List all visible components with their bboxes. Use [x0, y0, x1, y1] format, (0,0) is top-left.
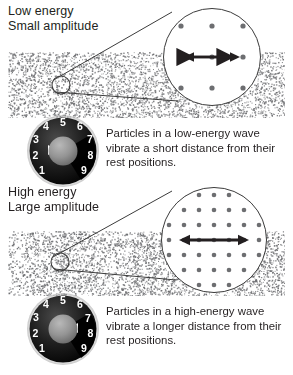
dial-number: 1	[39, 342, 45, 354]
dial-number: 6	[77, 298, 83, 310]
panel-heading-low: Low energy Small amplitude	[8, 4, 98, 34]
dial-number: 7	[87, 133, 93, 145]
dial-number: 5	[60, 294, 66, 306]
vibration-arrow-high	[162, 188, 266, 292]
panel-heading-high: High energy Large amplitude	[8, 185, 99, 215]
magnifier-low	[163, 8, 261, 106]
dial-number: 3	[33, 133, 39, 145]
caption-high: Particles in a high-energy wave vibrate …	[106, 304, 291, 348]
magnifier-high	[161, 187, 267, 293]
dial-number: 8	[88, 149, 94, 161]
dial-number: 4	[43, 120, 49, 132]
vibration-arrow-low	[164, 9, 260, 105]
dial-number: 7	[85, 312, 91, 324]
caption-low: Particles in a low-energy wave vibrate a…	[106, 126, 291, 170]
dial-number: 6	[77, 120, 83, 132]
dial-number: 4	[43, 298, 49, 310]
dial-number: 9	[81, 164, 87, 176]
figure-root: Low energy Small amplitude	[0, 0, 293, 375]
dial-number: 1	[39, 164, 45, 176]
dial-number: 3	[33, 311, 39, 323]
dial-number: 2	[33, 327, 39, 339]
dial-number: 2	[33, 149, 39, 161]
dial-number: 8	[88, 327, 94, 339]
energy-dial-low[interactable]: 1 2 3 4 5 6 7 8 9	[26, 114, 100, 188]
dial-number: 5	[60, 116, 66, 128]
energy-dial-high[interactable]: 1 2 3 4 5 6 7 8 9	[26, 292, 100, 366]
dial-number: 9	[81, 342, 87, 354]
